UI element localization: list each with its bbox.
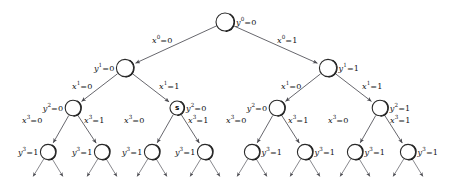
dangling-edge-d-7 [209,159,220,177]
nodes-layer [40,13,415,160]
dangling-edge-d-8 [237,159,248,177]
decision-tree-figure: y0=0y1=0y1=1y2=0y2=0sy2=0y2=1y3=1y3=1y3=… [0,0,455,184]
dangling-edge-d-6 [190,159,201,177]
tree-edge-e-ll-a [53,115,69,142]
tree-node-n-rr[interactable] [372,100,388,116]
dangling-edge-d-13 [359,159,370,177]
tree-edge-e-rl-a [257,115,273,142]
tree-node-n-rll[interactable] [244,144,259,159]
tree-node-n-rrl[interactable] [347,144,362,159]
edge-label-e-rr-b: x3=1 [390,116,410,124]
edges-layer [53,26,402,143]
edge-label-e-rl-b: x3=1 [288,116,308,124]
tree-node-n-r[interactable] [319,59,336,76]
edge-label-e-r-rr: x1=1 [362,82,382,90]
edge-label-e-l-ll: x1=0 [72,82,92,90]
tree-node-n-rlr[interactable] [297,144,312,159]
tree-graphics [0,0,455,184]
node-label-n-rlr: y3=1 [315,148,336,156]
dangling-edge-d-10 [290,159,301,177]
dangling-edge-d-11 [309,159,320,177]
edge-label-e-lr-b: x3=1 [188,116,208,124]
edge-label-e-l-lr: x1=1 [159,82,179,90]
dangling-edge-d-5 [156,159,167,177]
tree-edge-e-root-r [234,26,317,63]
dangling-edge-d-9 [256,159,267,177]
node-label-n-rll: y3=1 [262,148,283,156]
dangling-edge-d-3 [106,159,117,177]
dangling-edge-d-1 [52,159,63,177]
dangling-edge-d-2 [87,159,98,177]
tree-edge-e-root-l [136,26,217,63]
node-label-n-rrr: y3=1 [418,148,439,156]
edge-label-e-ll-b: x3=1 [84,116,104,124]
edge-label-e-ll-a: x3=0 [22,116,42,124]
edge-label-e-lr-a: x3=0 [124,116,144,124]
edge-label-e-rl-a: x3=0 [226,116,246,124]
dangling-edge-d-14 [393,159,404,177]
node-label-n-l: y1=0 [0,64,114,72]
tree-node-n-rrr[interactable] [400,144,415,159]
dangling-edge-d-15 [412,159,423,177]
dangling-edge-d-0 [33,159,44,177]
dangling-edge-d-12 [340,159,351,177]
tree-edge-e-lr-a [157,115,173,143]
node-label-n-lrr: y3=1 [0,148,195,156]
tree-node-n-rl[interactable] [269,100,285,116]
edge-label-e-rr-a: x3=0 [328,116,348,124]
tree-node-root[interactable] [216,13,234,31]
edge-label-e-root-r: x0=1 [277,36,297,44]
tree-node-n-l[interactable] [116,59,133,76]
node-label-n-rr: y2=1 [390,104,411,112]
dangling-edge-d-4 [137,159,148,177]
tree-edge-e-rr-a [360,115,376,142]
dangling-edges-layer [33,159,423,177]
node-label-n-rl: y2=0 [0,104,267,112]
node-label-n-rrl: y3=1 [365,148,386,156]
node-label-root: y0=0 [236,18,257,26]
node-label-n-r: y1=1 [339,64,360,72]
edge-label-e-root-l: x0=0 [152,36,172,44]
edge-label-e-r-rl: x1=0 [281,82,301,90]
tree-node-n-lrr[interactable] [197,144,212,159]
